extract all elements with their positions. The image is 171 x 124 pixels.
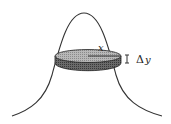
thickness-bracket [125, 55, 129, 63]
radius-label: x [98, 42, 104, 53]
thickness-label: Δy [136, 53, 151, 66]
diagram-canvas: x Δy [0, 0, 171, 124]
